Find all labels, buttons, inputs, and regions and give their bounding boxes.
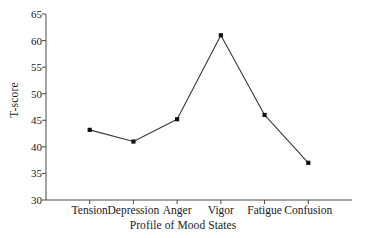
series-line: [90, 35, 309, 163]
x-tick-label-tension: Tension: [72, 204, 108, 216]
y-axis-tick-labels: 3035404550556065: [22, 0, 42, 238]
series-markers: [88, 33, 311, 165]
y-axis-title: T-score: [4, 0, 24, 200]
x-tick-label-fatigue: Fatigue: [247, 204, 282, 216]
data-point-confusion: [306, 161, 310, 165]
x-tick-label-vigor: Vigor: [208, 204, 234, 216]
y-tick-label: 60: [31, 35, 42, 47]
plot-area: [46, 14, 352, 200]
y-tick-label: 45: [31, 114, 42, 126]
x-tick-label-confusion: Confusion: [284, 204, 332, 216]
x-tick-label-anger: Anger: [163, 204, 192, 216]
data-point-anger: [175, 117, 179, 121]
data-point-vigor: [219, 33, 223, 37]
y-tick-label: 55: [31, 61, 42, 73]
y-axis-title-text: T-score: [8, 82, 20, 117]
y-tick-label: 50: [31, 88, 42, 100]
x-tick-label-depression: Depression: [108, 204, 160, 216]
y-axis-ticks: [42, 14, 46, 200]
x-axis-title: Profile of Mood States: [0, 219, 366, 231]
poms-line-chart: T-score 3035404550556065 TensionDepressi…: [0, 0, 366, 238]
plot-svg: [46, 14, 352, 200]
y-tick-label: 65: [31, 8, 42, 20]
data-point-tension: [88, 128, 92, 132]
data-point-depression: [131, 139, 135, 143]
y-tick-label: 40: [31, 141, 42, 153]
data-point-fatigue: [262, 113, 266, 117]
axis-lines: [46, 14, 352, 200]
y-tick-label: 35: [31, 167, 42, 179]
